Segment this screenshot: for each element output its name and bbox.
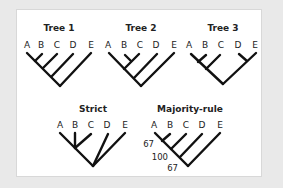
tree-3: Tree 3 A B C D E	[186, 23, 258, 84]
strict-consensus-tree: Strict A B C D E	[57, 104, 128, 166]
majority-leaf-e: E	[217, 120, 223, 130]
majority-leaf-c: C	[183, 120, 189, 130]
majority-leaf-a: A	[151, 120, 158, 130]
strict-leaf-e: E	[122, 120, 128, 130]
strict-leaf-a: A	[57, 120, 64, 130]
strict-leaf-d: D	[104, 120, 111, 130]
strict-title: Strict	[79, 104, 108, 114]
tree-2-leaf-e: E	[171, 40, 177, 50]
support-value-ab: 67	[143, 139, 154, 149]
tree-2-leaf-c: C	[137, 40, 143, 50]
tree-1-leaf-a: A	[24, 40, 31, 50]
tree-1-leaf-e: E	[88, 40, 94, 50]
tree-2-title: Tree 2	[125, 23, 156, 33]
tree-3-leaf-b: B	[202, 40, 208, 50]
tree-3-leaf-e: E	[252, 40, 258, 50]
tree-2: Tree 2 A B C D E	[105, 23, 177, 86]
majority-rule-consensus-tree: Majority-rule A B C D E 67 100 67	[143, 104, 223, 173]
consensus-tree-diagram: Tree 1 A B C D E Tree 2 A B C D E Tree 3…	[0, 0, 283, 188]
tree-3-leaf-c: C	[218, 40, 224, 50]
majority-leaf-d: D	[199, 120, 206, 130]
majority-rule-title: Majority-rule	[157, 104, 223, 114]
tree-1-leaf-d: D	[70, 40, 77, 50]
tree-1: Tree 1 A B C D E	[24, 23, 94, 86]
tree-1-leaf-c: C	[54, 40, 60, 50]
tree-3-leaf-a: A	[186, 40, 193, 50]
tree-2-leaf-a: A	[105, 40, 112, 50]
tree-1-leaf-b: B	[38, 40, 44, 50]
tree-3-title: Tree 3	[207, 23, 238, 33]
support-value-abc: 100	[152, 152, 168, 162]
support-value-abcd: 67	[167, 163, 178, 173]
tree-3-leaf-d: D	[235, 40, 242, 50]
majority-leaf-b: B	[167, 120, 173, 130]
strict-leaf-c: C	[88, 120, 94, 130]
strict-leaf-b: B	[72, 120, 78, 130]
tree-1-title: Tree 1	[43, 23, 74, 33]
tree-2-leaf-d: D	[153, 40, 160, 50]
tree-2-leaf-b: B	[121, 40, 127, 50]
